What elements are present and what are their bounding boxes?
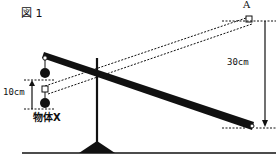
- solid-bar: [42, 52, 254, 130]
- lever-diagram: 図 1 A 30cm 10cm 物体X: [0, 0, 278, 161]
- dimension-30cm-label: 30cm: [227, 58, 249, 67]
- right-arrowhead-icon: [262, 120, 268, 127]
- lower-object-ball: [40, 98, 50, 108]
- figure-title: 図 1: [21, 8, 43, 19]
- lever-diagram-graphic: [0, 0, 278, 161]
- left-arrowhead-icon: [29, 80, 35, 86]
- object-x-label: 物体X: [33, 113, 61, 123]
- dimension-10cm-label: 10cm: [3, 88, 25, 97]
- dashed-bar-left-end: [42, 86, 48, 92]
- point-a-label: A: [243, 0, 250, 10]
- upper-object-ball: [40, 68, 50, 78]
- dashed-bar-position: [45, 17, 252, 94]
- bar-right-end: [250, 124, 254, 128]
- bar-left-hook: [43, 56, 47, 60]
